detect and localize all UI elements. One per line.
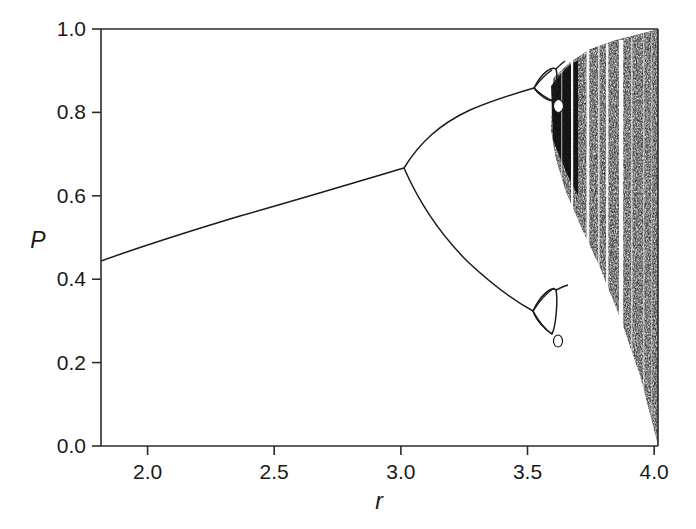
y-tick-label: 0.4 <box>57 267 87 290</box>
chaotic-region <box>540 29 658 446</box>
y-axis-label: P <box>30 227 46 253</box>
bifurcation-diagram-figure: 0.0 0.2 0.4 0.6 0.8 1.0 2.0 2.5 3.0 3.5 … <box>0 0 696 529</box>
y-tick-label: 0.6 <box>57 184 86 207</box>
period8-cell-lower <box>554 335 563 347</box>
y-tick-label: 1.0 <box>57 17 86 40</box>
x-tick-label: 4.0 <box>640 460 669 483</box>
periodic-window-band <box>651 32 652 446</box>
x-axis-label: r <box>375 488 384 514</box>
period8-cell-upper <box>554 100 564 113</box>
periodic-window-band <box>643 34 644 446</box>
plot-svg: 0.0 0.2 0.4 0.6 0.8 1.0 2.0 2.5 3.0 3.5 … <box>0 0 696 529</box>
y-tick-label: 0.8 <box>57 100 86 123</box>
y-tick-label: 0.0 <box>57 434 86 457</box>
x-tick-label: 2.5 <box>260 460 289 483</box>
x-tick-label: 3.0 <box>386 460 415 483</box>
y-tick-label: 0.2 <box>57 351 86 374</box>
x-tick-label: 3.5 <box>513 460 542 483</box>
x-tick-label: 2.0 <box>133 460 162 483</box>
